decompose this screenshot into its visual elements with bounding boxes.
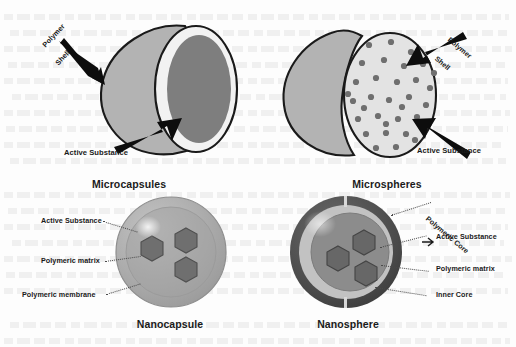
caption-microcapsules: Microcapsules (0, 178, 258, 190)
nanosphere-seam-top (344, 196, 347, 207)
label-active-substance-nanosphere: Active Substance (436, 232, 497, 241)
label-active-substance-nanocapsule: Active Substance (41, 216, 102, 225)
microsphere-matrix-face (344, 33, 436, 157)
label-inner-core-nanosphere: Inner Core (436, 290, 472, 299)
label-active-substance-microsphere: Active Substance (417, 146, 481, 155)
nanocapsule-highlight (135, 216, 161, 238)
panel-microspheres: Polymer Shell Active Substance Microsphe… (258, 0, 516, 190)
caption-microspheres: Microspheres (258, 178, 516, 190)
label-polymeric-matrix-nanosphere: Polymeric matrix (436, 264, 495, 273)
microcapsule-drawing (0, 0, 258, 175)
label-active-substance-microcapsule: Active Substance (64, 148, 128, 157)
caption-nanocapsule: Nanocapsule (55, 318, 285, 330)
polymer-shell-arrow (59, 38, 105, 85)
figure-page: Polymer Shell Active Substance Microcaps… (0, 0, 516, 347)
panel-microcapsules: Polymer Shell Active Substance Microcaps… (0, 0, 258, 190)
label-polymeric-membrane-nanocapsule: Polymeric membrane (22, 290, 96, 299)
caption-nanosphere: Nanosphere (288, 318, 408, 330)
label-polymeric-matrix-nanocapsule: Polymeric matrix (41, 256, 100, 265)
nanosphere-drawing (258, 190, 516, 315)
panel-nanosphere: Polymeric Core Active Substance Polymeri… (258, 190, 516, 347)
nanosphere-highlight (304, 211, 336, 237)
nanosphere-seam-bottom (344, 297, 347, 308)
panel-nanocapsule: Active Substance Polymeric matrix Polyme… (0, 190, 258, 347)
